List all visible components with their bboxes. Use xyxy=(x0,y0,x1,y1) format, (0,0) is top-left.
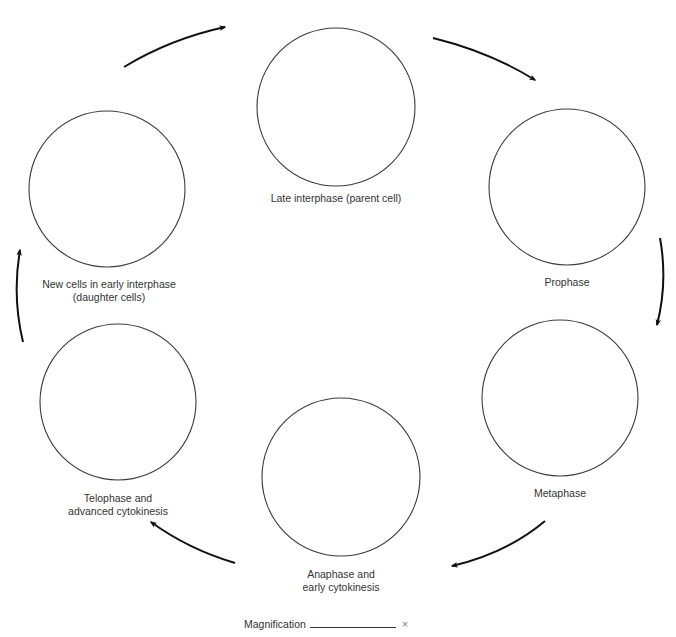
new-cells-label: New cells in early interphase(daughter c… xyxy=(42,278,176,304)
magnification-field: Magnification × xyxy=(244,617,408,630)
telophase-drawing-circle[interactable] xyxy=(40,324,196,480)
label-line: Late interphase (parent cell) xyxy=(271,192,402,205)
label-line: (daughter cells) xyxy=(42,291,176,304)
new-cells-drawing-circle[interactable] xyxy=(29,111,185,267)
label-line: early cytokinesis xyxy=(302,581,379,594)
arrow-prophase-to-metaphase-icon xyxy=(657,238,663,325)
label-line: Anaphase and xyxy=(302,568,379,581)
magnification-input-blank[interactable] xyxy=(310,617,396,628)
telophase-label: Telophase andadvanced cytokinesis xyxy=(68,492,168,518)
arrow-telophase-to-new-cells-icon xyxy=(17,250,23,342)
late-interphase-drawing-circle[interactable] xyxy=(257,28,415,186)
prophase-drawing-circle[interactable] xyxy=(489,109,645,265)
arrow-metaphase-to-anaphase-icon xyxy=(452,521,545,566)
label-line: New cells in early interphase xyxy=(42,278,176,291)
cell-cycle-diagram xyxy=(0,0,676,637)
label-line: Telophase and xyxy=(68,492,168,505)
arrow-new-cells-to-late-interphase-icon xyxy=(124,27,225,67)
metaphase-drawing-circle[interactable] xyxy=(482,320,638,476)
late-interphase-label: Late interphase (parent cell) xyxy=(271,192,402,205)
prophase-label: Prophase xyxy=(545,276,590,289)
anaphase-label: Anaphase andearly cytokinesis xyxy=(302,568,379,594)
label-line: advanced cytokinesis xyxy=(68,505,168,518)
label-line: Metaphase xyxy=(534,487,586,500)
arrow-anaphase-to-telophase-icon xyxy=(151,522,235,563)
metaphase-label: Metaphase xyxy=(534,487,586,500)
magnification-label: Magnification xyxy=(244,618,306,630)
label-line: Prophase xyxy=(545,276,590,289)
times-symbol: × xyxy=(402,618,408,630)
arrow-late-interphase-to-prophase-icon xyxy=(433,38,535,80)
anaphase-drawing-circle[interactable] xyxy=(262,398,420,556)
